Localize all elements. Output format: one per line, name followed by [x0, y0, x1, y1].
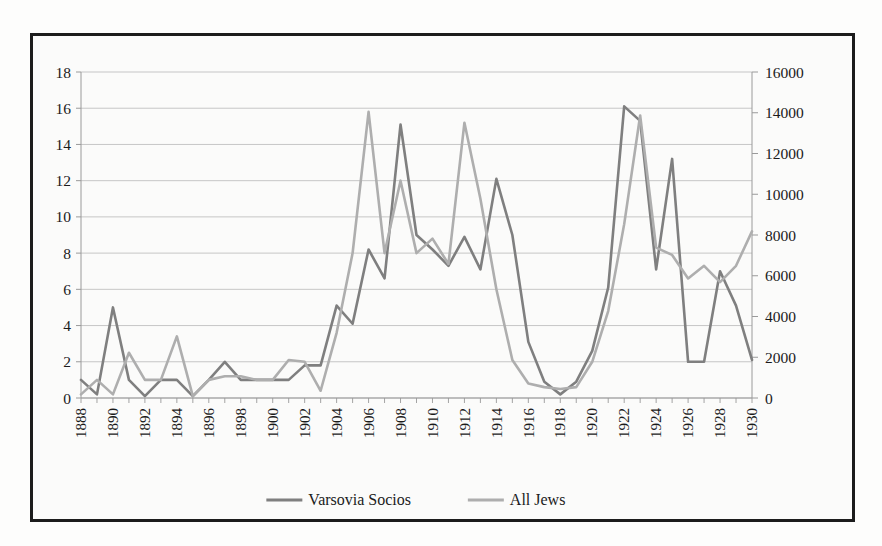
x-axis-tick-label: 1898	[233, 408, 249, 438]
y2-axis-tick-label: 8000	[765, 227, 796, 244]
x-axis-tick-label: 1918	[552, 408, 568, 438]
y-axis-tick-label: 0	[63, 390, 71, 407]
line-chart: 0246810121416180200040006000800010000120…	[33, 36, 852, 519]
x-axis-tick-label: 1910	[425, 408, 441, 438]
x-axis-tick-label: 1892	[137, 408, 153, 438]
x-axis-tick-label: 1902	[297, 408, 313, 438]
legend-entry: Varsovia Socios	[266, 491, 411, 508]
chart-plot-area: 0246810121416180200040006000800010000120…	[33, 36, 852, 519]
x-axis-tick-label: 1896	[201, 408, 217, 439]
x-axis-tick-label: 1914	[489, 408, 505, 439]
x-axis-tick-label: 1916	[521, 408, 537, 439]
y-axis-tick-label: 10	[56, 208, 72, 225]
x-axis-tick-label: 1928	[712, 408, 728, 438]
y-axis-tick-label: 12	[56, 172, 72, 189]
y-axis-tick-label: 16	[56, 100, 72, 117]
legend-label: Varsovia Socios	[308, 491, 411, 508]
x-axis-tick-label: 1922	[616, 408, 632, 438]
figure-frame: 0246810121416180200040006000800010000120…	[30, 33, 855, 522]
x-axis-tick-label: 1906	[361, 408, 377, 439]
y-axis-tick-label: 14	[56, 136, 72, 153]
y2-axis-tick-label: 6000	[765, 267, 796, 284]
y-axis-tick-label: 6	[63, 281, 71, 298]
y2-axis-tick-label: 0	[765, 390, 773, 407]
y2-axis-tick-label: 4000	[765, 308, 796, 325]
y2-axis-tick-label: 12000	[765, 145, 804, 162]
x-axis-tick-label: 1930	[744, 408, 760, 438]
x-axis-tick-label: 1920	[584, 408, 600, 438]
y-axis-tick-label: 18	[56, 64, 72, 81]
y-axis-tick-label: 2	[63, 353, 71, 370]
series-line-all-jews	[81, 112, 752, 396]
x-axis-tick-label: 1924	[648, 408, 664, 439]
legend-entry: All Jews	[468, 491, 566, 508]
x-axis-tick-label: 1890	[105, 408, 121, 438]
y2-axis-tick-label: 14000	[765, 104, 804, 121]
x-axis-tick-label: 1908	[393, 408, 409, 438]
y-axis-tick-label: 8	[63, 245, 71, 262]
x-axis-tick-label: 1912	[457, 408, 473, 438]
x-axis-tick-label: 1888	[73, 408, 89, 438]
x-axis-tick-label: 1900	[265, 408, 281, 438]
y-axis-tick-label: 4	[63, 317, 71, 334]
y2-axis-tick-label: 10000	[765, 186, 804, 203]
y2-axis-tick-label: 2000	[765, 349, 796, 366]
y2-axis-tick-label: 16000	[765, 64, 804, 81]
legend-label: All Jews	[510, 491, 566, 508]
x-axis-tick-label: 1894	[169, 408, 185, 439]
x-axis-tick-label: 1926	[680, 408, 696, 439]
x-axis-tick-label: 1904	[329, 408, 345, 439]
